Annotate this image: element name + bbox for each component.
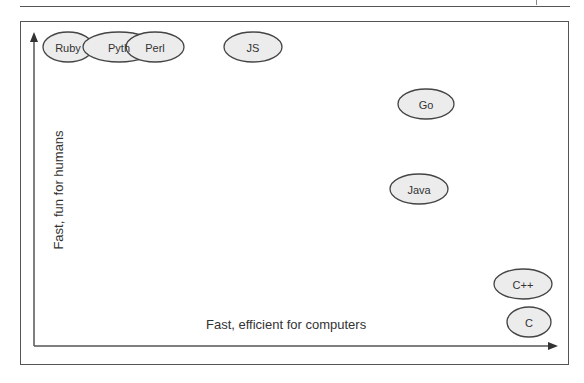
x-axis-label: Fast, efficient for computers — [206, 317, 366, 332]
language-label: Java — [407, 184, 430, 196]
language-label: C — [525, 317, 533, 329]
language-label: Go — [419, 99, 434, 111]
y-axis-label: Fast, fun for humans — [51, 130, 66, 249]
language-label: C++ — [513, 279, 534, 291]
language-label: Pyth — [108, 42, 130, 54]
language-label: Ruby — [55, 42, 81, 54]
language-label: Perl — [145, 42, 165, 54]
language-label: JS — [247, 42, 260, 54]
